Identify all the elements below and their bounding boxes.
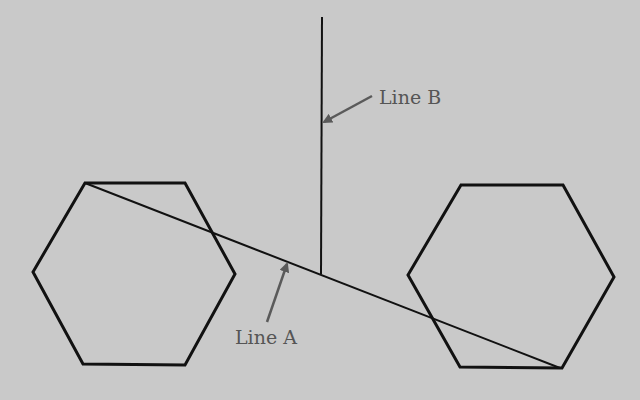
line-b-arrow-icon bbox=[324, 96, 372, 122]
diagram-canvas: Line B Line A bbox=[0, 0, 640, 400]
line-b-label: Line B bbox=[379, 86, 441, 108]
line-a bbox=[85, 183, 560, 368]
line-a-label: Line A bbox=[235, 326, 297, 348]
line-a-arrow-icon bbox=[267, 264, 287, 322]
diagram-svg bbox=[0, 0, 640, 400]
line-b bbox=[321, 17, 322, 274]
hexagon-right bbox=[408, 185, 614, 368]
hexagon-left bbox=[33, 183, 235, 365]
